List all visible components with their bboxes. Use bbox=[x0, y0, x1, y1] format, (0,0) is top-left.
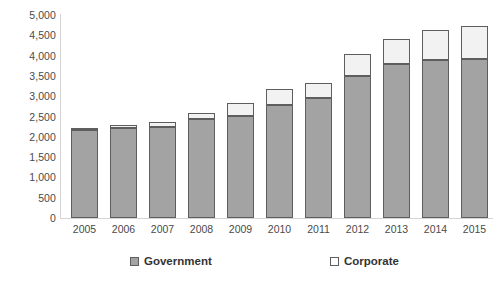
bar-segment-government[interactable] bbox=[344, 76, 371, 218]
legend-label: Government bbox=[144, 255, 212, 267]
bar-segment-corporate[interactable] bbox=[110, 125, 137, 128]
bar-segment-government[interactable] bbox=[383, 64, 410, 218]
bar-group[interactable] bbox=[461, 15, 488, 218]
y-tick-label: 1,500 bbox=[4, 152, 56, 163]
bar-segment-corporate[interactable] bbox=[383, 39, 410, 63]
bar-segment-government[interactable] bbox=[71, 130, 98, 219]
bar-segment-government[interactable] bbox=[110, 128, 137, 218]
legend-swatch-icon bbox=[130, 257, 139, 266]
bar-segment-corporate[interactable] bbox=[305, 83, 332, 98]
x-axis-line bbox=[60, 218, 493, 219]
bar-segment-government[interactable] bbox=[305, 98, 332, 218]
bar-segment-corporate[interactable] bbox=[461, 26, 488, 58]
bar-segment-corporate[interactable] bbox=[422, 30, 449, 60]
bar-group[interactable] bbox=[71, 15, 98, 218]
plot-area bbox=[61, 15, 493, 218]
y-tick-label: 4,500 bbox=[4, 30, 56, 41]
y-tick-label: 500 bbox=[4, 193, 56, 204]
bar-group[interactable] bbox=[227, 15, 254, 218]
bar-segment-corporate[interactable] bbox=[266, 89, 293, 105]
x-tick-label: 2015 bbox=[452, 224, 498, 235]
bar-group[interactable] bbox=[422, 15, 449, 218]
y-tick-label: 3,000 bbox=[4, 91, 56, 102]
bar-group[interactable] bbox=[188, 15, 215, 218]
chart-legend: GovernmentCorporate bbox=[0, 255, 502, 275]
y-tick-label: 2,000 bbox=[4, 132, 56, 143]
y-axis-tick-labels: 05001,0001,5002,0002,5003,0003,5004,0004… bbox=[0, 0, 56, 282]
legend-swatch-icon bbox=[330, 257, 339, 266]
bar-segment-government[interactable] bbox=[188, 119, 215, 218]
bar-segment-corporate[interactable] bbox=[149, 122, 176, 127]
y-tick-label: 0 bbox=[4, 213, 56, 224]
bar-segment-government[interactable] bbox=[266, 105, 293, 218]
y-tick-label: 3,500 bbox=[4, 71, 56, 82]
bar-group[interactable] bbox=[110, 15, 137, 218]
bar-segment-government[interactable] bbox=[149, 127, 176, 218]
bar-group[interactable] bbox=[344, 15, 371, 218]
bar-segment-government[interactable] bbox=[422, 60, 449, 218]
stacked-bar-chart: 05001,0001,5002,0002,5003,0003,5004,0004… bbox=[0, 0, 502, 282]
bar-segment-corporate[interactable] bbox=[344, 54, 371, 76]
legend-label: Corporate bbox=[344, 255, 399, 267]
legend-item-corporate[interactable]: Corporate bbox=[330, 255, 399, 267]
bar-segment-corporate[interactable] bbox=[227, 103, 254, 116]
y-tick-label: 5,000 bbox=[4, 10, 56, 21]
bar-segment-government[interactable] bbox=[461, 59, 488, 218]
bar-group[interactable] bbox=[266, 15, 293, 218]
legend-item-government[interactable]: Government bbox=[130, 255, 212, 267]
bar-group[interactable] bbox=[149, 15, 176, 218]
bar-group[interactable] bbox=[383, 15, 410, 218]
y-tick-label: 2,500 bbox=[4, 112, 56, 123]
bar-group[interactable] bbox=[305, 15, 332, 218]
y-tick-label: 1,000 bbox=[4, 172, 56, 183]
y-tick-label: 4,000 bbox=[4, 51, 56, 62]
bar-segment-government[interactable] bbox=[227, 116, 254, 218]
bar-segment-corporate[interactable] bbox=[188, 113, 215, 119]
bar-segment-corporate[interactable] bbox=[71, 128, 98, 130]
